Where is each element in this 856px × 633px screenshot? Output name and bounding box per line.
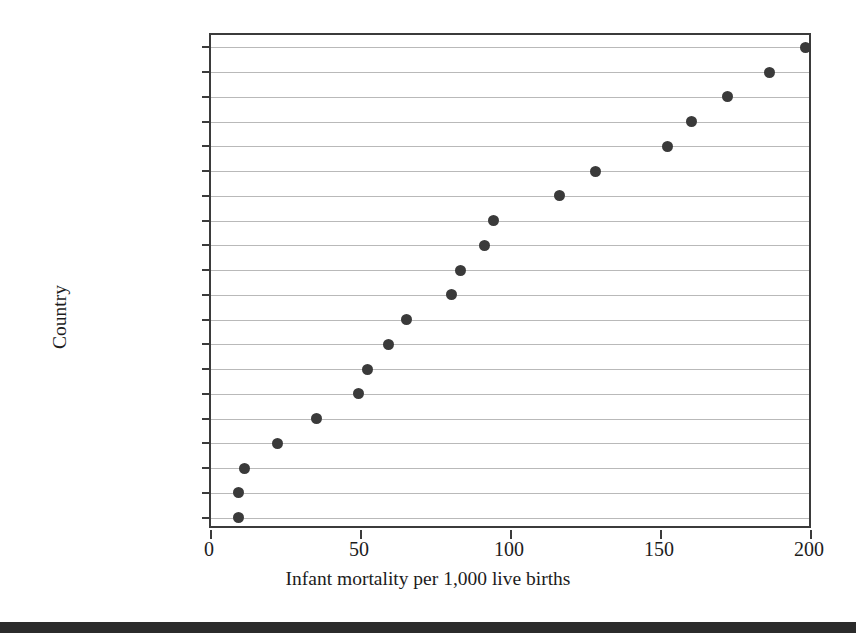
y-axis-title: Country <box>49 285 71 349</box>
y-axis-labels: RwandaYemenSudanBoliviaLaosLesothoPeruGu… <box>209 33 811 528</box>
x-axis-tick-label: 100 <box>494 538 524 561</box>
x-axis-tick-label: 150 <box>644 538 674 561</box>
x-axis-tick-label: 0 <box>204 538 214 561</box>
x-axis-tick-label: 200 <box>794 538 824 561</box>
x-axis-tick-label: 50 <box>349 538 369 561</box>
chart-page: Country RwandaYemenSudanBoliviaLaosLesot… <box>0 0 856 633</box>
x-axis-title: Infant mortality per 1,000 live births <box>0 568 856 590</box>
footer-rule <box>0 622 856 633</box>
